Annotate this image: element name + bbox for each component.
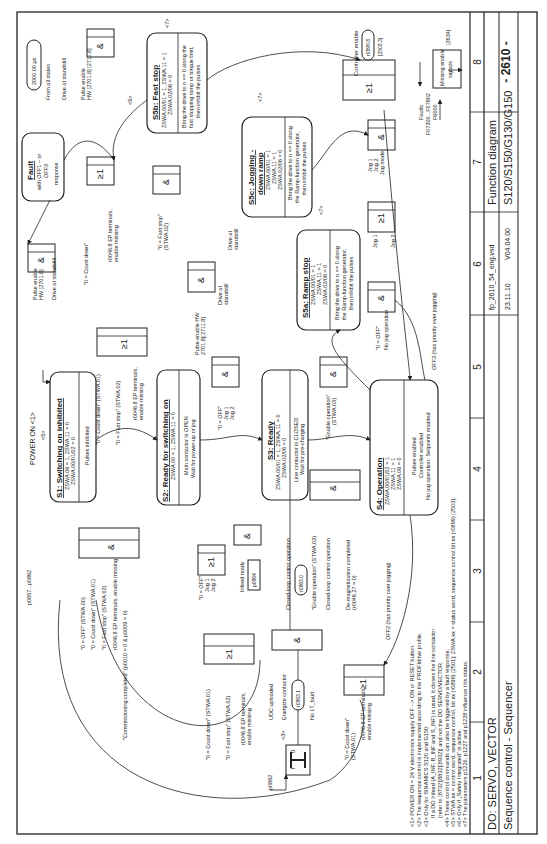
column-number: 6 <box>472 261 483 267</box>
svg-text:UDC uploaded: UDC uploaded <box>268 684 274 720</box>
svg-text:standstill: standstill <box>233 229 239 250</box>
svg-text:Jog 1: Jog 1 <box>372 235 378 248</box>
timer-block: T0 <box>286 745 310 775</box>
svg-text:OFF3 (has priority over joggin: OFF3 (has priority over jogging) <box>431 292 437 370</box>
svg-text:r0899.8: r0899.8 <box>365 39 371 56</box>
svg-text:POWER ON <1>: POWER ON <1> <box>29 412 36 465</box>
footnote-3a: If a DO Infeed (A_INF, B_INF and S_INF) … <box>430 629 436 818</box>
svg-text:Jog mode: Jog mode <box>379 151 385 175</box>
state-s5c-jogging-down-ramp: S5c: Jogging - down ramp ZSWA.00/01 = 1 … <box>242 117 312 217</box>
and-gate: & <box>234 525 261 545</box>
svg-text:&: & <box>161 179 171 185</box>
svg-text:F6000: F6000 <box>432 104 438 120</box>
svg-text:ZSWA.00/01/02 = 0: ZSWA.00/01/02 = 0 <box>70 437 76 485</box>
svg-text:then inhibit the pulses: then inhibit the pulses <box>348 257 354 310</box>
svg-text:fast stopping ramp or torque l: fast stopping ramp or torque limit, <box>188 46 194 128</box>
svg-text:Drive at standstill: Drive at standstill <box>61 58 67 100</box>
svg-text:HW [2701.8] [2711.8]: HW [2701.8] [2711.8] <box>86 48 92 100</box>
svg-text:"Enable operation" (STWA.03): "Enable operation" (STWA.03) <box>311 536 317 610</box>
svg-text:S2: Ready for switching on: S2: Ready for switching on <box>161 399 170 502</box>
svg-text:Pulses inhibited: Pulses inhibited <box>84 426 90 465</box>
or-gate-controller-enable: ≥1 <box>343 60 395 100</box>
product-list: S120/S150/G130/G150 <box>502 91 514 205</box>
state-s5a-ramp-stop: S5a: Ramp stop ZSWA.00/01 = 1 ZSWA.11 = … <box>297 230 360 330</box>
and-gate: & <box>368 282 395 312</box>
svg-text:"0 = OFF": "0 = OFF" <box>375 326 381 350</box>
svg-text:"0 = Coast down" (STWA.01): "0 = Coast down" (STWA.01) <box>90 579 96 650</box>
svg-text:ZSWA.02/06 = 0: ZSWA.02/06 = 0 <box>277 150 283 190</box>
column-number: 1 <box>472 775 483 781</box>
svg-text:≥1: ≥1 <box>206 557 216 567</box>
svg-text:S1: Switching on inhibited: S1: Switching on inhibited <box>55 398 64 498</box>
svg-text:OFF3: OFF3 <box>43 164 49 178</box>
svg-text:Wait for power-up or jog: Wait for power-up or jog <box>190 420 196 479</box>
svg-text:<7>: <7> <box>164 19 170 28</box>
or-gate: ≥1 <box>87 157 114 185</box>
svg-text:≥1: ≥1 <box>364 83 374 93</box>
state-s4-operation: S4: Operation ZSWA.00/01/02 = 1 ZSWA.11 … <box>370 380 438 515</box>
and-gate: & <box>153 166 180 194</box>
svg-text:Missing enable: Missing enable <box>439 49 445 86</box>
svg-text:≥1: ≥1 <box>95 169 105 179</box>
column-number: 3 <box>472 568 483 574</box>
svg-text:<5>: <5> <box>40 431 46 440</box>
svg-text:Main contactor is OPEN: Main contactor is OPEN <box>183 416 189 475</box>
svg-text:Drive at standstill: Drive at standstill <box>51 258 57 300</box>
and-gate: & <box>212 357 239 387</box>
footnotes: <1> POWER ON = 24 V electronics supply O… <box>409 497 468 827</box>
svg-text:2701.8][2711.8]: 2701.8][2711.8] <box>200 317 206 355</box>
svg-text:(STWA.03): (STWA.03) <box>331 398 337 425</box>
svg-text:Jog 2: Jog 2 <box>229 407 235 420</box>
svg-text:Closed-loop control operation: Closed-loop control operation <box>325 538 331 610</box>
svg-text:&: & <box>106 544 116 550</box>
svg-text:then inhibit the pulses: then inhibit the pulses <box>195 65 201 118</box>
svg-text:2000.00 µs: 2000.00 µs <box>31 57 37 85</box>
svg-text:HW [2701.8]: HW [2701.8] <box>38 269 44 300</box>
svg-text:<5>: <5> <box>127 96 133 105</box>
or-gate: ≥1 <box>204 634 254 664</box>
column-number: 2 <box>472 669 483 675</box>
column-number: 5 <box>472 364 483 370</box>
svg-text:Wait for pre-charging: Wait for pre-charging <box>299 424 305 475</box>
page-number: - 2610 - <box>499 41 513 82</box>
svg-text:S4: Operation: S4: Operation <box>375 457 384 510</box>
or-gate: ≥1 <box>198 545 225 575</box>
footnote-3: <3> Only for SINAMICS S120 and G150: <box>423 725 429 827</box>
svg-text:No LT_fault: No LT_fault <box>309 692 315 720</box>
svg-text:No jog operation: No jog operation <box>383 310 389 350</box>
svg-text:S3: Ready: S3: Ready <box>266 421 275 460</box>
svg-text:Energize contactor: Energize contactor <box>281 674 287 720</box>
svg-text:S5a: Ramp stop: S5a: Ramp stop <box>301 257 310 318</box>
state-fault: Fault with OFF1 – or OFF3 response <box>22 133 64 201</box>
svg-text:ZSWA.02/06 = 0: ZSWA.02/06 = 0 <box>167 75 173 115</box>
svg-text:&: & <box>242 533 252 539</box>
or-gate: ≥1 <box>368 202 395 232</box>
svg-text:standstill: standstill <box>223 284 229 305</box>
svg-text:Controller enable: Controller enable <box>353 30 359 76</box>
svg-text:&: & <box>95 43 105 49</box>
svg-text:then inhibit the pulses: then inhibit the pulses <box>301 142 307 195</box>
svg-text:From all states: From all states <box>45 64 51 100</box>
svg-text:&: & <box>328 485 338 491</box>
svg-text:(r0046.27 = 0): (r0046.27 = 0) <box>351 575 357 610</box>
and-gate: & <box>188 262 215 292</box>
footnote-7: <7> The parameters p1226, p1227 and p122… <box>462 660 468 827</box>
svg-text:p0862: p0862 <box>267 775 273 790</box>
svg-text:No jog operation: Setpoints en: No jog operation: Setpoints enabled <box>425 413 431 500</box>
column-number: 4 <box>472 466 483 472</box>
svg-text:&: & <box>220 371 230 377</box>
state-s5b-fast-stop: S5b: Fast stop ZSWA.00/01 = 1, ZSWA.11 =… <box>147 33 207 133</box>
and-gate: & <box>79 528 139 558</box>
diagram-subtitle: Sequence control - Sequencer <box>502 681 514 830</box>
svg-text:enable missing: enable missing <box>138 383 144 420</box>
svg-text:Infeed ready: Infeed ready <box>239 561 245 592</box>
svg-text:<7>: <7> <box>318 206 324 215</box>
svg-text:enable missing: enable missing <box>246 708 252 745</box>
svg-text:Jog 2: Jog 2 <box>210 579 216 592</box>
svg-text:&: & <box>328 371 338 377</box>
svg-text:"0 = Fast stop" (STWA.02): "0 = Fast stop" (STWA.02) <box>225 695 231 760</box>
svg-text:&: & <box>36 257 46 263</box>
column-number: 8 <box>472 59 483 65</box>
svg-text:"0 = OFF" (STWA.00): "0 = OFF" (STWA.00) <box>80 597 86 650</box>
svg-text:enable missing: enable missing <box>113 225 119 262</box>
